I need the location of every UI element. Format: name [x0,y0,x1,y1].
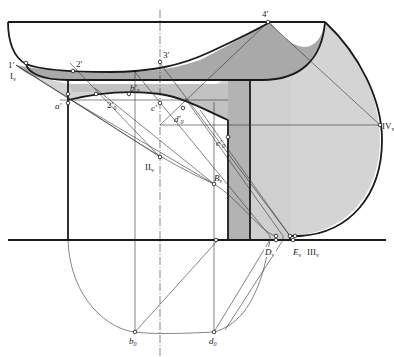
column-shadow-strip [228,80,250,240]
label-b0: b0 [129,336,137,347]
label-Ev: Ev [292,247,302,258]
label-Iv: Iv [10,71,16,82]
diagram-canvas: 1′ Iv 2′ 3′ 4′ a′ b′0 2′0 c′ d′0 e′0 IIv… [0,0,394,357]
label-a-prime: a′ [55,101,63,111]
label-c-prime: c′ [151,103,158,113]
label-IIIv: IIIv [307,247,319,258]
label-1prime: 1′ [8,60,15,70]
label-IVv: IVv [382,121,394,132]
column-shadow-strip-light [250,80,290,240]
label-4prime: 4′ [262,9,269,19]
shadow-construction-diagram: 1′ Iv 2′ 3′ 4′ a′ b′0 2′0 c′ d′0 e′0 IIv… [0,0,394,357]
label-2prime: 2′ [76,59,83,69]
label-3prime: 3′ [163,50,170,60]
label-d0: d0 [209,336,217,347]
